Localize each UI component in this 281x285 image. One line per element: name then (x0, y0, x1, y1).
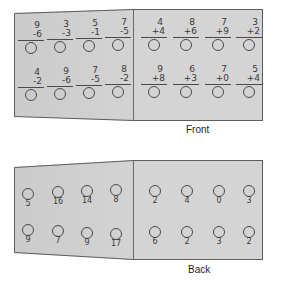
answer-value: 3 (238, 196, 260, 205)
answer-circle[interactable] (180, 86, 192, 98)
operand-bottom: -6 (47, 76, 73, 86)
operand-bottom: -5 (105, 27, 131, 37)
front-problem-l1c2: 3 -3 (47, 20, 73, 53)
answer-value: 7 (47, 236, 69, 245)
answer-circle[interactable] (212, 39, 224, 51)
front-problem-r2c2: 6 +3 (173, 65, 199, 98)
answer-value: 8 (105, 195, 127, 204)
front-problem-l1c1: 9 -6 (18, 21, 44, 54)
operand-bottom: -3 (47, 29, 73, 39)
answer-circle[interactable] (148, 86, 160, 98)
answer-circle[interactable] (54, 41, 66, 53)
back-answer-r1c2: 4 (176, 185, 198, 205)
answer-circle[interactable] (212, 86, 224, 98)
back-answer-r2c1: 6 (144, 226, 166, 246)
answer-circle[interactable] (83, 87, 95, 99)
answer-circle[interactable] (148, 39, 160, 51)
operand-bottom: -1 (76, 28, 102, 38)
front-problem-l2c2: 9 -6 (47, 67, 73, 100)
front-problem-r1c2: 8 +6 (173, 18, 199, 51)
front-caption: Front (186, 124, 209, 135)
back-card: 5 16 14 8 9 7 9 17 (14, 160, 263, 260)
back-caption: Back (188, 264, 210, 275)
answer-value: 3 (208, 237, 230, 246)
front-fold-line (133, 9, 134, 121)
answer-circle[interactable] (112, 86, 124, 98)
answer-value: 14 (76, 196, 98, 205)
operand-bottom: -5 (76, 75, 102, 85)
answer-circle[interactable] (25, 42, 37, 54)
front-problem-l1c4: 7 -5 (105, 18, 131, 51)
operand-bottom: +2 (236, 27, 262, 37)
operand-bottom: -2 (18, 77, 44, 87)
back-answer-l2c2: 7 (47, 225, 69, 245)
answer-value: 0 (208, 196, 230, 205)
back-answer-l1c4: 8 (105, 184, 127, 204)
answer-value: 16 (47, 197, 69, 206)
answer-value: 2 (176, 237, 198, 246)
front-problem-r1c3: 7 +9 (205, 18, 231, 51)
front-problem-l1c3: 5 -1 (76, 19, 102, 52)
operand-bottom: +6 (173, 27, 199, 37)
answer-value: 2 (144, 196, 166, 205)
operand-bottom: -6 (18, 30, 44, 40)
operand-bottom: +8 (141, 74, 167, 84)
back-answer-r2c3: 3 (208, 226, 230, 246)
operand-bottom: +4 (141, 27, 167, 37)
answer-value: 5 (17, 199, 39, 208)
answer-value: 9 (76, 238, 98, 247)
operand-bottom: +9 (205, 27, 231, 37)
front-problem-l2c4: 8 -2 (105, 65, 131, 98)
back-answer-l2c4: 17 (105, 228, 127, 248)
operand-bottom: +3 (173, 74, 199, 84)
back-answer-r2c2: 2 (176, 226, 198, 246)
back-answer-r1c4: 3 (238, 185, 260, 205)
back-answer-l2c1: 9 (17, 224, 39, 244)
answer-value: 2 (238, 237, 260, 246)
answer-value: 4 (176, 196, 198, 205)
front-problem-r2c3: 7 +0 (205, 65, 231, 98)
front-problem-r1c1: 4 +4 (141, 18, 167, 51)
front-problem-r1c4: 3 +2 (236, 18, 262, 51)
answer-value: 9 (17, 235, 39, 244)
answer-value: 6 (144, 237, 166, 246)
answer-circle[interactable] (180, 39, 192, 51)
back-answer-r1c1: 2 (144, 185, 166, 205)
answer-circle[interactable] (83, 40, 95, 52)
back-answer-l2c3: 9 (76, 227, 98, 247)
answer-value: 17 (105, 239, 127, 248)
operand-bottom: -2 (105, 74, 131, 84)
back-answer-l1c3: 14 (76, 185, 98, 205)
back-answer-l1c1: 5 (17, 188, 39, 208)
front-problem-r2c4: 5 +4 (236, 65, 262, 98)
answer-circle[interactable] (112, 39, 124, 51)
back-answer-r1c3: 0 (208, 185, 230, 205)
operand-bottom: +0 (205, 74, 231, 84)
front-card: 9 -6 3 -3 5 -1 7 -5 4 -2 9 -6 (14, 9, 263, 121)
front-problem-r2c1: 9 +8 (141, 65, 167, 98)
front-problem-l2c1: 4 -2 (18, 68, 44, 101)
answer-circle[interactable] (243, 39, 255, 51)
back-fold-line (133, 160, 134, 260)
front-problem-l2c3: 7 -5 (76, 66, 102, 99)
answer-circle[interactable] (54, 88, 66, 100)
worksheet-illustration: 9 -6 3 -3 5 -1 7 -5 4 -2 9 -6 (0, 0, 281, 285)
operand-bottom: +4 (236, 74, 262, 84)
back-answer-l1c2: 16 (47, 186, 69, 206)
answer-circle[interactable] (25, 89, 37, 101)
back-answer-r2c4: 2 (238, 226, 260, 246)
answer-circle[interactable] (243, 86, 255, 98)
